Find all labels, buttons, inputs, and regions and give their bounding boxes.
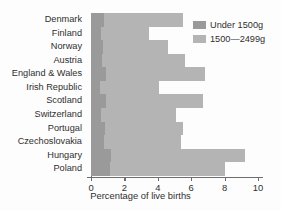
bar-segment <box>101 27 149 41</box>
bar-row <box>91 108 176 122</box>
legend-label: Under 1500g <box>210 20 263 30</box>
bar-segment <box>91 81 100 95</box>
bar-segment <box>105 122 183 136</box>
bar-segment <box>91 162 110 176</box>
bar-segment <box>91 135 104 149</box>
category-label: Denmark <box>45 13 82 27</box>
x-tick-mark <box>158 177 159 181</box>
bar-segment <box>91 27 101 41</box>
category-label: England & Wales <box>12 67 82 81</box>
category-label: Finland <box>52 27 82 41</box>
category-label: Czechoslovakia <box>18 135 82 149</box>
bar-segment <box>91 94 106 108</box>
bar-row <box>91 13 183 27</box>
legend-swatch-icon <box>193 35 206 43</box>
bar-segment <box>100 81 159 95</box>
bar-row <box>91 67 205 81</box>
bar-segment <box>91 13 104 27</box>
bar-row <box>91 81 159 95</box>
legend-swatch-icon <box>193 21 206 29</box>
category-label: Irish Republic <box>26 81 82 95</box>
bar-segment <box>91 108 101 122</box>
bar-segment <box>103 40 168 54</box>
bar-segment <box>91 40 103 54</box>
bar-row <box>91 162 225 176</box>
value-axis-baseline <box>87 177 263 178</box>
bar-segment <box>102 54 185 68</box>
bar-segment <box>106 67 205 81</box>
bar-segment <box>104 13 182 27</box>
x-tick-mark <box>258 177 259 181</box>
bar-segment <box>101 108 176 122</box>
legend-item: 1500—2499g <box>193 33 279 45</box>
bar-row <box>91 149 245 163</box>
bar-segment <box>91 67 106 81</box>
bar-segment <box>106 94 203 108</box>
category-label: Norway <box>51 40 82 54</box>
x-tick-mark <box>225 177 226 181</box>
bar-row <box>91 54 185 68</box>
bar-segment <box>91 122 105 136</box>
bar-row <box>91 122 183 136</box>
category-label: Hungary <box>47 149 82 163</box>
category-label: Austria <box>53 54 82 68</box>
category-label: Poland <box>53 162 82 176</box>
bar-chart-figure: DenmarkFinlandNorwayAustriaEngland & Wal… <box>0 0 281 211</box>
category-label: Portugal <box>48 122 82 136</box>
x-tick-mark <box>91 177 92 181</box>
legend-item: Under 1500g <box>193 19 279 31</box>
bar-segment <box>110 162 224 176</box>
x-axis-title: Percentage of live births <box>0 190 281 201</box>
bar-segment <box>104 135 182 149</box>
chart-legend: Under 1500g1500—2499g <box>193 19 279 47</box>
x-tick-mark <box>124 177 125 181</box>
legend-label: 1500—2499g <box>210 34 265 44</box>
bar-segment <box>111 149 245 163</box>
bar-row <box>91 135 181 149</box>
bar-row <box>91 94 203 108</box>
category-label: Switzerland <box>35 108 83 122</box>
category-label: Scotland <box>46 94 82 108</box>
bar-row <box>91 27 149 41</box>
category-axis: DenmarkFinlandNorwayAustriaEngland & Wal… <box>0 13 86 176</box>
bar-segment <box>91 149 111 163</box>
bar-segment <box>91 54 102 68</box>
x-tick-mark <box>191 177 192 181</box>
bar-row <box>91 40 168 54</box>
